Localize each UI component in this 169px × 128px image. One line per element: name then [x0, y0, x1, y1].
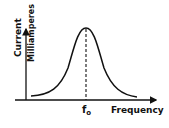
- resonance-curve: [31, 28, 137, 97]
- resonance-diagram: Current Milliamperes fo Frequency: [0, 0, 169, 128]
- y-axis-label-current: Current: [13, 18, 23, 57]
- y-axis-label-milliamperes: Milliamperes: [27, 4, 36, 62]
- peak-frequency-label: fo: [82, 104, 91, 117]
- x-axis-label: Frequency: [111, 105, 164, 115]
